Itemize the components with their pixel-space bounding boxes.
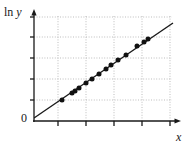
- data-point: [116, 58, 121, 63]
- data-point: [124, 53, 129, 58]
- data-point: [84, 81, 89, 86]
- data-point: [77, 86, 82, 91]
- data-points: [60, 37, 151, 103]
- x-axis-ticks: [58, 121, 170, 126]
- horizontal-gridlines: [34, 17, 172, 100]
- y-axis-label-prefix: ln: [4, 5, 13, 19]
- x-axis-label: x: [176, 131, 181, 143]
- vertical-gridlines: [58, 16, 170, 121]
- data-point: [146, 37, 151, 42]
- y-axis: [31, 9, 36, 122]
- data-point: [142, 40, 147, 45]
- plot-canvas: [0, 0, 191, 146]
- data-point: [60, 98, 65, 103]
- data-point: [73, 89, 78, 94]
- y-axis-label-variable: y: [16, 5, 21, 19]
- data-point: [135, 44, 140, 49]
- data-point: [97, 72, 102, 77]
- data-point: [109, 63, 114, 68]
- origin-label: 0: [21, 112, 27, 124]
- x-axis: [33, 118, 181, 123]
- data-point: [104, 67, 109, 72]
- y-axis-label: ln y: [4, 6, 22, 18]
- data-point: [90, 77, 95, 82]
- chart-figure: ln y 0 x: [0, 0, 191, 146]
